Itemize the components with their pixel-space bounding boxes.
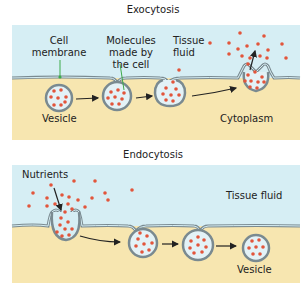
vesicle-1	[46, 85, 72, 111]
endocytosis-panel: Nutrients Tissue fluid Vesicle	[12, 165, 300, 283]
label-vesicle: Vesicle	[237, 264, 272, 275]
label-vesicle: Vesicle	[42, 113, 77, 124]
invagination	[52, 212, 80, 240]
vesicle-free	[243, 235, 269, 261]
vesicle-2	[103, 82, 131, 110]
vesicle-detaching	[183, 230, 213, 260]
label-cytoplasm: Cytoplasm	[220, 113, 273, 124]
label-cell: Cell	[50, 35, 69, 46]
label-fluid: fluid	[173, 47, 195, 58]
label-made-by: made by	[109, 47, 153, 58]
label-tissue-fluid: Tissue fluid	[225, 190, 282, 201]
label-tissue: Tissue	[172, 35, 205, 46]
vesicle-pinching	[129, 229, 157, 257]
label-membrane: membrane	[32, 47, 87, 58]
label-the-cell: the cell	[113, 59, 150, 70]
label-molecules: Molecules	[106, 35, 156, 46]
diagram: Cell membrane Molecules made by the cell…	[0, 0, 306, 298]
label-nutrients: Nutrients	[22, 169, 68, 180]
exocytosis-panel: Cell membrane Molecules made by the cell…	[12, 25, 300, 140]
